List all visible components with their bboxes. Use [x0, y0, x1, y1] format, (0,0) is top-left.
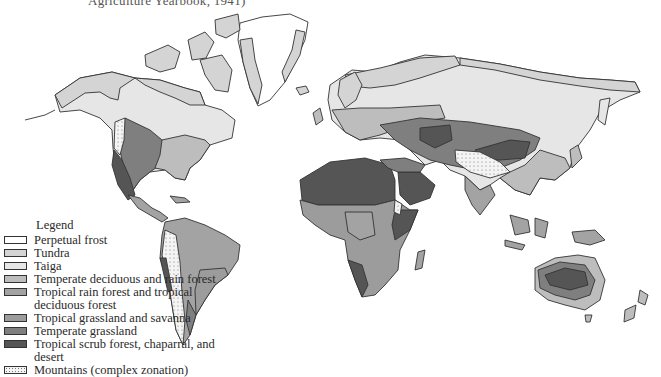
swatch-temperate-forest	[4, 275, 27, 283]
legend-label: Tundra	[34, 246, 70, 260]
north-africa-desert	[300, 158, 395, 205]
legend-label: Perpetual frost	[34, 233, 107, 247]
legend-list: Perpetual frost Tundra Taiga Temperate d…	[4, 234, 234, 377]
legend-item-tropical-forest: Tropical rain forest and tropical decidu…	[4, 286, 234, 312]
legend-item-mountains: Mountains (complex zonation)	[4, 364, 234, 377]
central-america	[128, 195, 168, 222]
madagascar	[415, 250, 425, 270]
swatch-tropical-forest	[4, 288, 27, 296]
swatch-desert	[4, 340, 27, 348]
legend-title: Legend	[36, 218, 73, 233]
legend-label: Tropical grassland and savanna	[34, 311, 191, 325]
swatch-taiga	[4, 262, 27, 270]
legend-label: Tropical scrub forest, chaparral, and de…	[34, 337, 215, 364]
japan	[570, 145, 582, 168]
legend-label: Mountains (complex zonation)	[34, 363, 188, 377]
swatch-tundra	[4, 249, 27, 257]
new-zealand	[638, 290, 648, 305]
na-temperate-forest	[155, 135, 210, 180]
swatch-mountains	[4, 366, 27, 374]
swatch-perpetual-frost	[4, 236, 27, 244]
swatch-temperate-grassland	[4, 327, 27, 335]
legend-label: Temperate grassland	[34, 324, 137, 338]
legend-item-desert: Tropical scrub forest, chaparral, and de…	[4, 338, 234, 364]
swatch-savanna	[4, 314, 27, 322]
arabia-desert	[398, 172, 435, 205]
legend-label: Temperate deciduous and rain forest	[34, 272, 216, 286]
legend-label: Taiga	[34, 259, 62, 273]
iceland	[296, 86, 309, 95]
legend-label: Tropical rain forest and tropical decidu…	[34, 285, 193, 312]
